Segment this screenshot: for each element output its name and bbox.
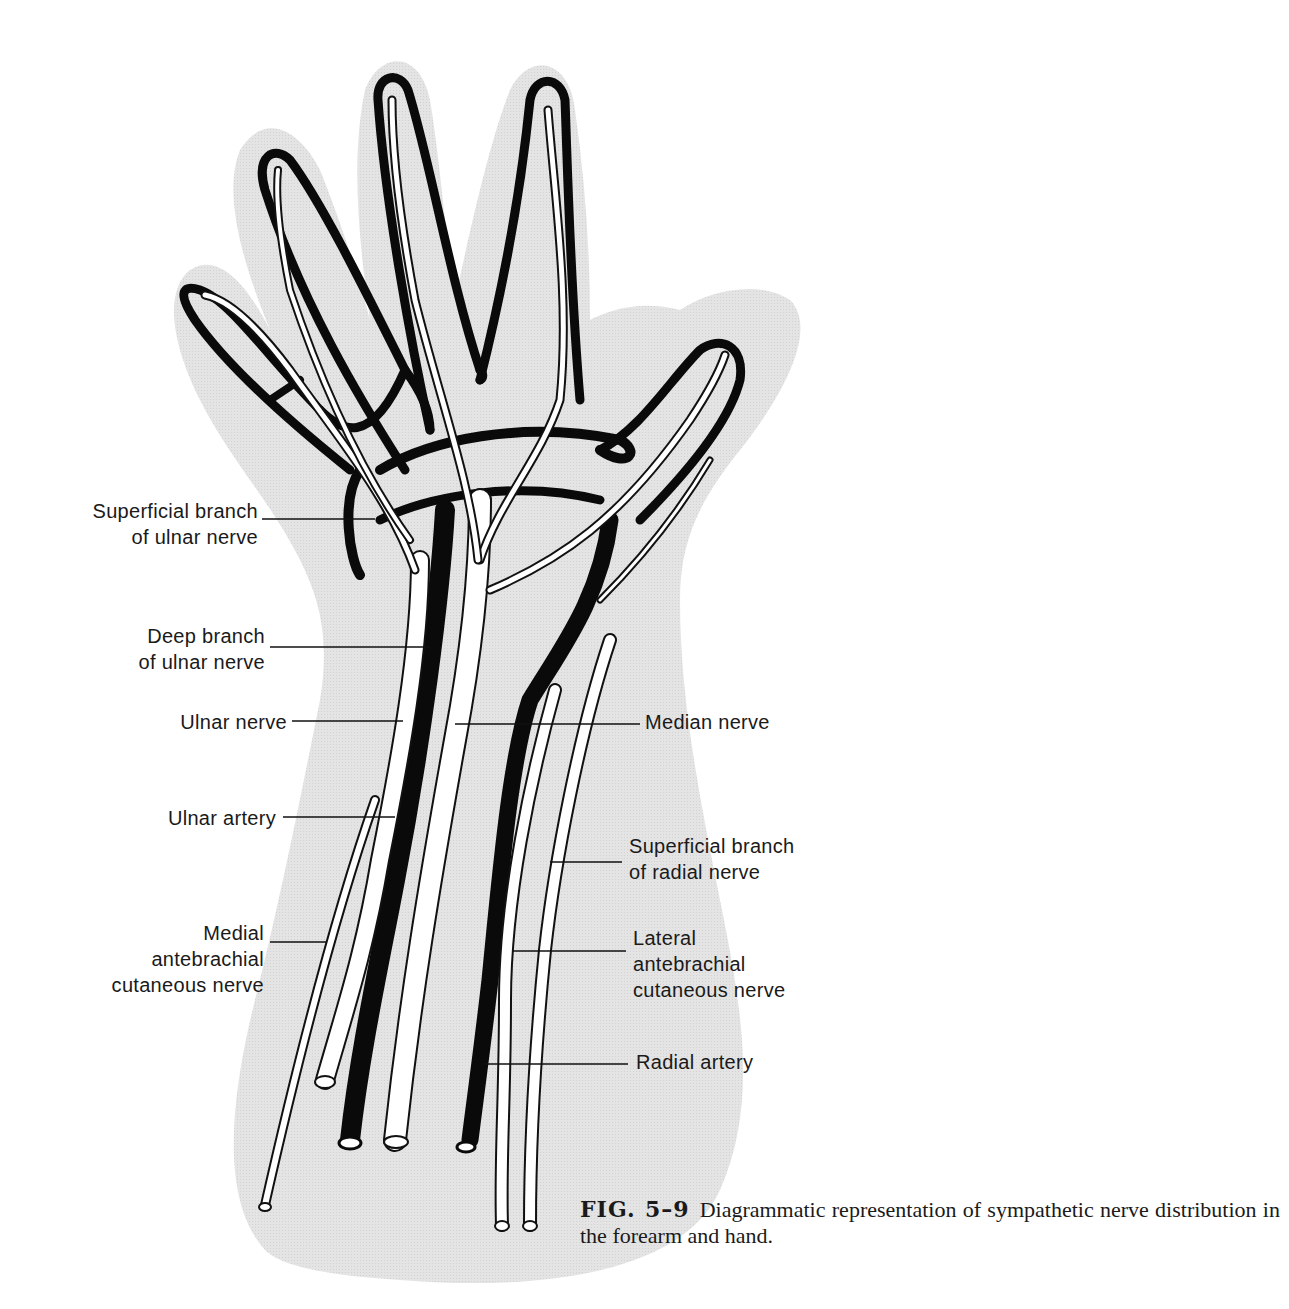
- label-radial-artery: Radial artery: [636, 1049, 836, 1075]
- figure-caption: FIG. 5–9Diagrammatic representation of s…: [580, 1196, 1280, 1249]
- label-lateral-antebrachial-cutaneous-nerve: Lateral antebrachial cutaneous nerve: [633, 925, 873, 1003]
- label-ulnar-nerve: Ulnar nerve: [40, 709, 287, 735]
- figure-number: FIG. 5–9: [580, 1196, 690, 1222]
- textbook-page: Superficial branch of ulnar nerve Deep b…: [0, 0, 1289, 1309]
- label-median-nerve: Median nerve: [645, 709, 885, 735]
- label-superficial-branch-ulnar: Superficial branch of ulnar nerve: [40, 498, 258, 550]
- label-deep-branch-ulnar: Deep branch of ulnar nerve: [40, 623, 265, 675]
- skin-silhouette: [174, 61, 800, 1283]
- label-superficial-branch-radial: Superficial branch of radial nerve: [629, 833, 869, 885]
- label-medial-antebrachial-cutaneous-nerve: Medial antebrachial cutaneous nerve: [40, 920, 264, 998]
- label-ulnar-artery: Ulnar artery: [40, 805, 276, 831]
